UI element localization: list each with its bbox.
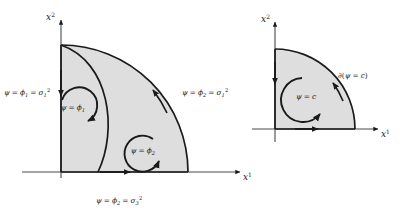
left-edge-equation-label: ψ=ϕ1=σ12 <box>4 87 50 98</box>
bottom-edge-equation-label: ψ=ϕ2=σ32 <box>96 195 142 206</box>
shaded-quarter-disc-region-right <box>275 49 355 129</box>
right-diagram: x2 x1 ∂(ψ=c) ψ=c <box>252 13 390 143</box>
diagram-svg: x2 x1 ψ=ϕ1=σ12 ψ=ϕ2=σ12 ψ=ϕ2=σ32 ψ=ϕ1 ψ=… <box>0 0 403 218</box>
left-diagram: x2 x1 ψ=ϕ1=σ12 ψ=ϕ2=σ12 ψ=ϕ2=σ32 ψ=ϕ1 ψ=… <box>4 11 252 206</box>
boundary-operator-label: ∂(ψ=c) <box>338 71 368 80</box>
outer-arc-equation-label: ψ=ϕ2=σ12 <box>182 87 228 98</box>
x-axis-label-left: x1 <box>243 171 252 183</box>
region-label-phi-1: ψ=ϕ1 <box>61 103 85 113</box>
x-axis-label-right: x1 <box>381 128 390 140</box>
region-label-c: ψ=c <box>296 92 316 101</box>
region-label-phi-2: ψ=ϕ2 <box>131 146 155 156</box>
y-axis-label-left: x2 <box>46 11 55 23</box>
y-axis-label-right: x2 <box>261 13 270 25</box>
figure-container: x2 x1 ψ=ϕ1=σ12 ψ=ϕ2=σ12 ψ=ϕ2=σ32 ψ=ϕ1 ψ=… <box>0 0 403 218</box>
